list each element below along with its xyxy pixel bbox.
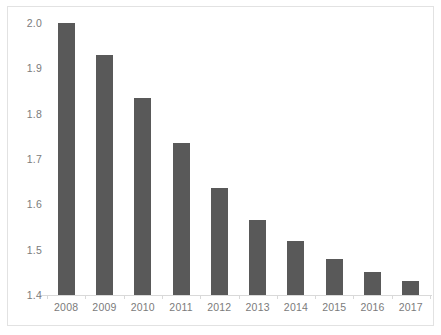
x-axis-tick-mark: [315, 295, 316, 299]
x-axis-tick-label: 2014: [277, 302, 315, 313]
x-axis-tick-mark: [85, 295, 86, 299]
bar: [326, 259, 343, 295]
y-axis-tick-label: 1.9: [6, 63, 42, 74]
y-axis-tick-label: 2.0: [6, 18, 42, 29]
bar: [364, 272, 381, 295]
x-axis-tick-label: 2015: [315, 302, 353, 313]
x-axis-tick-mark: [200, 295, 201, 299]
x-axis-tick-label: 2010: [124, 302, 162, 313]
bar-chart: 1.41.51.61.71.81.92.0 200820092010201120…: [0, 0, 441, 335]
x-axis-tick-label: 2017: [392, 302, 430, 313]
x-axis-tick-mark: [430, 295, 431, 299]
x-axis-tick-label: 2013: [239, 302, 277, 313]
bar: [249, 220, 266, 295]
bar: [402, 281, 419, 295]
x-axis-tick-mark: [353, 295, 354, 299]
y-axis-tick-label: 1.5: [6, 244, 42, 255]
bar: [96, 55, 113, 295]
x-axis-tick-label: 2009: [85, 302, 123, 313]
x-axis-tick-label: 2016: [353, 302, 391, 313]
x-axis-tick-label: 2011: [162, 302, 200, 313]
x-axis-tick-label: 2012: [200, 302, 238, 313]
x-axis-tick-mark: [239, 295, 240, 299]
x-axis-tick-mark: [162, 295, 163, 299]
x-axis-tick-label: 2008: [47, 302, 85, 313]
x-axis-tick-mark: [392, 295, 393, 299]
x-axis-line: [40, 295, 432, 296]
x-axis-tick-mark: [277, 295, 278, 299]
y-axis-tick-label: 1.8: [6, 108, 42, 119]
bar: [287, 241, 304, 295]
plot-area: [47, 23, 430, 295]
y-axis-tick-label: 1.4: [6, 290, 42, 301]
x-axis-tick-mark: [47, 295, 48, 299]
bar: [58, 23, 75, 295]
x-axis-tick-mark: [124, 295, 125, 299]
y-axis-tick-label: 1.7: [6, 154, 42, 165]
y-axis-tick-label: 1.6: [6, 199, 42, 210]
bar: [211, 188, 228, 295]
bar: [134, 98, 151, 295]
bar: [173, 143, 190, 295]
